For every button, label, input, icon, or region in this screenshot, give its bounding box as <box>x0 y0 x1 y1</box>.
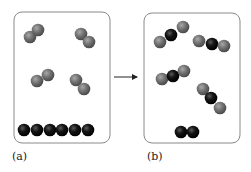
molecule-diatomic-black <box>175 126 200 139</box>
black-atom <box>167 70 180 83</box>
gray-atom <box>31 75 44 88</box>
gray-atom <box>177 21 190 34</box>
molecule-diatomic-gray <box>31 69 55 88</box>
gray-atom <box>32 24 45 37</box>
black-atom <box>206 38 219 51</box>
black-atom <box>31 124 44 137</box>
black-atom <box>175 126 188 139</box>
panel-a-label: (a) <box>12 150 27 163</box>
black-atom <box>187 126 200 139</box>
gray-atom <box>178 65 191 78</box>
molecule-triatomic <box>154 21 190 49</box>
black-atom <box>69 124 82 137</box>
gray-atom <box>156 73 169 86</box>
molecule-triatomic <box>193 35 231 53</box>
molecule-diatomic-gray <box>75 28 96 49</box>
reaction-diagram <box>0 0 251 172</box>
molecule-triatomic <box>197 83 227 115</box>
gray-atom <box>193 35 206 48</box>
black-atom <box>82 124 95 137</box>
gray-atom <box>42 69 55 82</box>
molecule-diatomic-gray <box>24 24 45 44</box>
gray-atom <box>214 102 227 115</box>
gray-atom <box>83 36 96 49</box>
black-atom <box>18 124 31 137</box>
gray-atom <box>78 83 91 96</box>
molecule-black-row <box>18 124 95 137</box>
panel-b-label: (b) <box>147 150 163 163</box>
molecule-triatomic <box>156 65 191 86</box>
panel-b <box>144 13 240 143</box>
gray-atom <box>218 40 231 53</box>
molecule-diatomic-gray <box>70 74 91 96</box>
black-atom <box>205 92 218 105</box>
gray-atom <box>154 36 167 49</box>
black-atom <box>44 124 57 137</box>
black-atom <box>56 124 69 137</box>
black-atom <box>165 29 178 42</box>
panel-a <box>14 12 110 143</box>
